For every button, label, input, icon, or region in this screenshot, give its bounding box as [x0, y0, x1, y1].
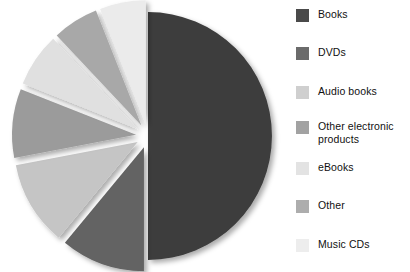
legend-item-label: Other electronic products: [318, 120, 394, 146]
legend-item[interactable]: Audio books: [296, 85, 410, 99]
legend-swatch-icon: [296, 200, 309, 213]
legend-item[interactable]: Books: [296, 8, 410, 22]
legend-swatch-icon: [296, 121, 309, 134]
legend-item[interactable]: Music CDs: [296, 238, 410, 252]
legend-item[interactable]: DVDs: [296, 46, 410, 60]
pie-slices-group: [12, 0, 272, 271]
legend-item-label: Other: [318, 199, 345, 212]
legend-item-label: Music CDs: [318, 238, 370, 251]
legend-item[interactable]: eBooks: [296, 161, 410, 175]
legend-swatch-icon: [296, 9, 309, 22]
pie-chart-svg: [0, 0, 290, 272]
legend-swatch-icon: [296, 47, 309, 60]
legend-item-label: Books: [318, 8, 348, 21]
legend-item-label: eBooks: [318, 161, 354, 174]
pie-chart-figure: BooksDVDsAudio booksOther electronic pro…: [0, 0, 410, 272]
legend-swatch-icon: [296, 239, 309, 252]
pie-slice[interactable]: [148, 12, 272, 260]
legend-item[interactable]: Other: [296, 199, 410, 213]
legend-swatch-icon: [296, 162, 309, 175]
chart-legend: BooksDVDsAudio booksOther electronic pro…: [296, 0, 410, 272]
legend-item[interactable]: Other electronic products: [296, 120, 410, 146]
legend-item-label: Audio books: [318, 85, 377, 98]
legend-swatch-icon: [296, 86, 309, 99]
pie-chart-plot-area: [0, 0, 290, 272]
legend-item-label: DVDs: [318, 46, 346, 59]
